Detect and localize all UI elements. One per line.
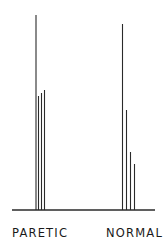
- normal-label: NORMAL: [106, 226, 163, 240]
- paretic-label: PARETIC: [12, 226, 68, 240]
- spike-chart: [0, 0, 167, 248]
- normal-spike-group: [123, 24, 135, 210]
- paretic-spike-group: [36, 15, 45, 210]
